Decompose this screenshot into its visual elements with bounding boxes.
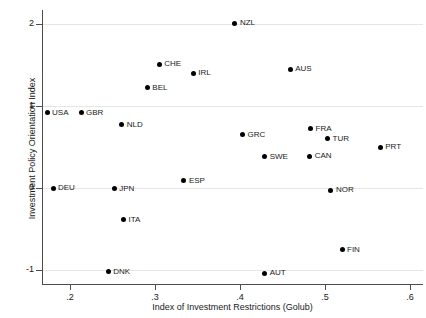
x-tick-mark xyxy=(325,284,326,290)
x-tick-mark xyxy=(155,284,156,290)
data-point-label: FIN xyxy=(347,246,360,254)
data-point[interactable] xyxy=(308,126,313,131)
data-point[interactable] xyxy=(112,186,117,191)
data-point-label: GRC xyxy=(248,131,266,139)
gridline-y xyxy=(42,106,423,107)
x-tick-label: .2 xyxy=(58,293,82,302)
y-tick-mark xyxy=(36,24,42,25)
data-point-label: ITA xyxy=(129,216,141,224)
data-point[interactable] xyxy=(262,154,267,159)
data-point-label: AUT xyxy=(270,269,286,277)
data-point[interactable] xyxy=(378,145,383,150)
x-tick-label: .6 xyxy=(398,293,422,302)
data-point[interactable] xyxy=(262,271,267,276)
x-tick-mark xyxy=(70,284,71,290)
data-point-label: GBR xyxy=(86,109,103,117)
data-point-label: JPN xyxy=(119,185,134,193)
plot-area: 210-1 .2.3.4.5.6 USAGBRDEUDNKJPNNLDITABE… xyxy=(0,0,426,318)
data-point[interactable] xyxy=(181,178,186,183)
data-point-label: PRT xyxy=(385,143,401,151)
gridline-y xyxy=(42,270,423,271)
data-point-label: FRA xyxy=(316,125,332,133)
data-point-label: NLD xyxy=(127,121,143,129)
data-point-label: DEU xyxy=(58,184,75,192)
data-point[interactable] xyxy=(51,186,56,191)
y-tick-label: 2 xyxy=(8,19,34,28)
data-point-label: CHE xyxy=(164,60,181,68)
x-tick-label: .3 xyxy=(143,293,167,302)
y-tick-mark xyxy=(36,106,42,107)
scatter-chart: 210-1 .2.3.4.5.6 USAGBRDEUDNKJPNNLDITABE… xyxy=(0,0,426,318)
data-point[interactable] xyxy=(119,122,124,127)
data-point[interactable] xyxy=(79,110,84,115)
data-point[interactable] xyxy=(157,62,162,67)
data-point[interactable] xyxy=(325,136,330,141)
y-tick-label: -1 xyxy=(8,265,34,274)
data-point[interactable] xyxy=(307,154,312,159)
data-point[interactable] xyxy=(121,217,126,222)
data-point-label: SWE xyxy=(270,153,288,161)
x-tick-label: .5 xyxy=(313,293,337,302)
x-tick-mark xyxy=(240,284,241,290)
y-tick-mark xyxy=(36,270,42,271)
x-axis-title: Index of Investment Restrictions (Golub) xyxy=(42,303,423,312)
data-point-label: IRL xyxy=(198,69,210,77)
data-point-label: ESP xyxy=(189,177,205,185)
y-tick-mark xyxy=(36,188,42,189)
data-point[interactable] xyxy=(328,188,333,193)
data-point[interactable] xyxy=(240,132,245,137)
x-tick-mark xyxy=(410,284,411,290)
data-point-label: CAN xyxy=(315,152,332,160)
data-point-label: NZL xyxy=(240,19,255,27)
data-point[interactable] xyxy=(288,67,293,72)
data-point[interactable] xyxy=(106,269,111,274)
x-axis-line xyxy=(42,284,423,285)
y-axis-line xyxy=(42,10,43,285)
data-point[interactable] xyxy=(191,71,196,76)
data-point-label: USA xyxy=(52,109,68,117)
data-point-label: BEL xyxy=(152,84,167,92)
data-point[interactable] xyxy=(145,85,150,90)
data-point[interactable] xyxy=(45,110,50,115)
data-point-label: DNK xyxy=(113,268,130,276)
gridline-y xyxy=(42,188,423,189)
data-point-label: AUS xyxy=(295,65,311,73)
data-point-label: TUR xyxy=(333,135,349,143)
x-tick-label: .4 xyxy=(228,293,252,302)
y-axis-title: Investment Policy Orientation Index xyxy=(28,49,37,249)
data-point[interactable] xyxy=(340,247,345,252)
data-point-label: NOR xyxy=(336,186,354,194)
